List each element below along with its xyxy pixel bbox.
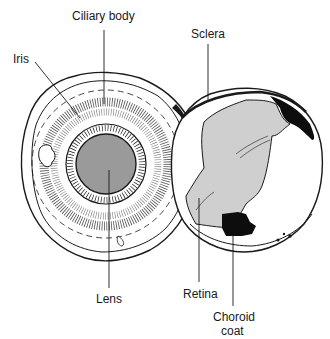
label-ciliary-body: Ciliary body [72, 9, 135, 23]
label-iris: Iris [13, 52, 29, 66]
lens [76, 134, 136, 194]
label-choroid-line1: Choroid [213, 310, 255, 324]
tissue-dot [283, 233, 285, 235]
label-lens: Lens [96, 292, 122, 306]
label-sclera: Sclera [191, 27, 225, 41]
eye-dissection-diagram [0, 0, 330, 339]
label-choroid-line2: coat [221, 324, 244, 338]
label-retina: Retina [183, 287, 218, 301]
posterior-eye-half [172, 88, 323, 252]
